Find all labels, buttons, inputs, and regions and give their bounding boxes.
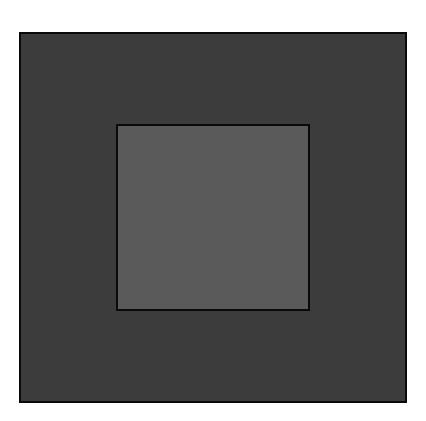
inner-square xyxy=(116,124,310,311)
diagram-canvas xyxy=(0,0,426,421)
